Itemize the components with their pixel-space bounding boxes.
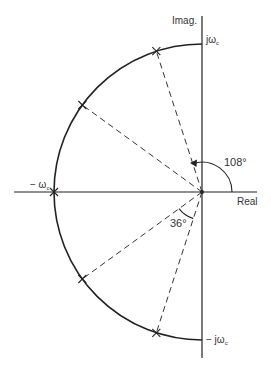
pole-diagram: Imag. Real jωc − jωc − ωc 108° 36° [0,0,271,374]
angle-label-36: 36° [170,217,187,229]
pole-icon [152,47,160,55]
top-label: jωc [205,34,219,46]
arrow-head-icon [190,160,197,168]
imag-axis-label: Imag. [172,15,197,26]
pole-icon [78,275,86,283]
bottom-label: − jωc [206,334,228,346]
pole-icon [78,101,86,109]
origin-dot [200,190,204,194]
left-label: − ωc [30,179,49,191]
pole-icon [152,329,160,337]
angle-label-108: 108° [224,156,247,168]
real-axis-label: Real [237,196,258,207]
